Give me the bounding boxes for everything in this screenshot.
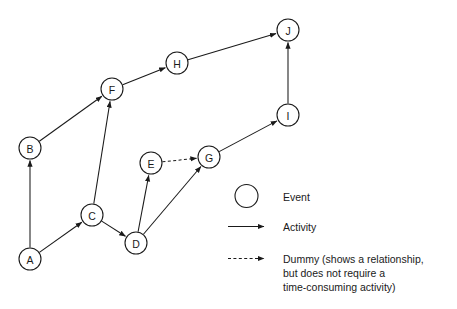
node-layer: ABCDEFGHIJ <box>19 19 299 270</box>
node-b-label: B <box>26 143 33 155</box>
node-g[interactable]: G <box>198 146 220 168</box>
node-h-label: H <box>173 58 181 70</box>
node-i-label: I <box>287 110 290 122</box>
legend-event-icon <box>235 185 258 208</box>
node-d[interactable]: D <box>125 232 147 254</box>
edge-d-to-e <box>138 175 149 231</box>
legend-activity-label: Activity <box>283 221 317 233</box>
node-e[interactable]: E <box>140 152 162 174</box>
node-c-label: C <box>88 210 96 222</box>
edge-e-to-g <box>162 158 196 162</box>
network-diagram: ABCDEFGHIJ Event Activity Dummy (shows a… <box>0 0 457 309</box>
node-c[interactable]: C <box>81 204 103 226</box>
legend-dummy-label-line2: but does not require a <box>283 267 385 279</box>
node-d-label: D <box>132 238 140 250</box>
legend: Event Activity Dummy (shows a relationsh… <box>228 185 424 293</box>
node-e-label: E <box>147 158 154 170</box>
node-i[interactable]: I <box>277 104 299 126</box>
edge-g-to-i <box>219 121 277 152</box>
node-j[interactable]: J <box>277 19 299 41</box>
node-a[interactable]: A <box>19 248 41 270</box>
edge-c-to-f <box>94 101 110 203</box>
legend-dummy-label-line3: time-consuming activity) <box>283 281 396 293</box>
node-g-label: G <box>205 152 213 164</box>
node-f-label: F <box>109 84 115 96</box>
edge-b-to-f <box>39 96 102 141</box>
edge-layer <box>30 34 288 253</box>
node-a-label: A <box>26 254 33 266</box>
node-h[interactable]: H <box>166 52 188 74</box>
legend-event-label: Event <box>283 191 310 203</box>
edge-h-to-j <box>188 34 276 60</box>
edge-a-to-c <box>39 222 81 252</box>
edge-c-to-d <box>102 221 126 236</box>
edge-f-to-h <box>123 68 166 85</box>
node-f[interactable]: F <box>101 78 123 100</box>
edge-d-to-g <box>143 167 200 235</box>
node-b[interactable]: B <box>19 137 41 159</box>
legend-dummy-label: Dummy (shows a relationship, <box>283 253 424 265</box>
network-diagram-canvas: ABCDEFGHIJ Event Activity Dummy (shows a… <box>0 0 457 309</box>
node-j-label: J <box>285 25 290 37</box>
